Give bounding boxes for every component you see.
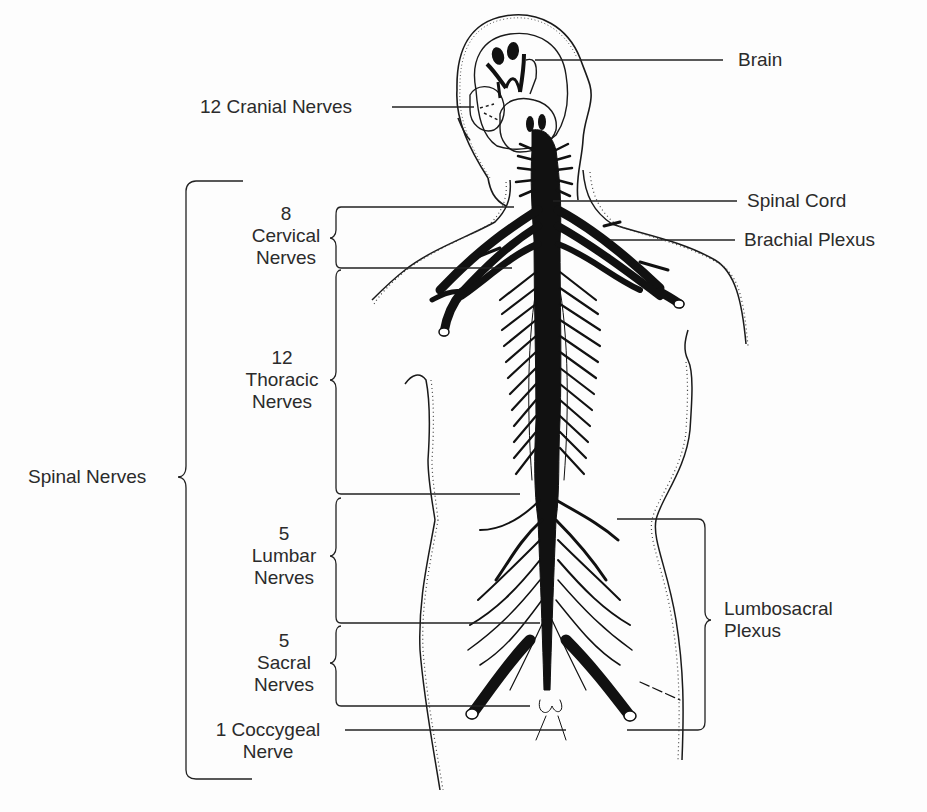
lumbar-suffix: Nerves: [240, 567, 328, 589]
cervical-name: Cervical: [244, 225, 328, 247]
label-brain: Brain: [738, 49, 782, 71]
lumbosacral-line2: Plexus: [724, 620, 833, 642]
lumbar-count: 5: [240, 523, 328, 545]
label-coccygeal-nerve: 1 Coccygeal Nerve: [206, 719, 330, 763]
brain: [470, 33, 568, 152]
thoracic-name: Thoracic: [236, 369, 328, 391]
coccygeal-line1: 1 Coccygeal: [206, 719, 330, 741]
label-thoracic-nerves: 12 Thoracic Nerves: [236, 347, 328, 413]
cervical-count: 8: [244, 203, 328, 225]
thoracic-count: 12: [236, 347, 328, 369]
anatomy-drawing: [0, 0, 927, 812]
label-brachial-plexus: Brachial Plexus: [744, 229, 875, 251]
head-outline: [457, 15, 591, 206]
thoracic-suffix: Nerves: [236, 391, 328, 413]
coccygeal-line2: Nerve: [206, 741, 330, 763]
label-sacral-nerves: 5 Sacral Nerves: [240, 630, 328, 696]
label-cervical-nerves: 8 Cervical Nerves: [244, 203, 328, 269]
sacral-suffix: Nerves: [240, 674, 328, 696]
label-spinal-cord: Spinal Cord: [747, 190, 846, 212]
lumbosacral-line1: Lumbosacral: [724, 598, 833, 620]
sacral-count: 5: [240, 630, 328, 652]
sacral-name: Sacral: [240, 652, 328, 674]
nervous-system-diagram: Brain 12 Cranial Nerves Spinal Cord Brac…: [0, 0, 927, 812]
label-lumbar-nerves: 5 Lumbar Nerves: [240, 523, 328, 589]
label-spinal-nerves: Spinal Nerves: [28, 466, 146, 488]
lumbar-name: Lumbar: [240, 545, 328, 567]
label-cranial-nerves: 12 Cranial Nerves: [200, 96, 352, 118]
label-lumbosacral-plexus: Lumbosacral Plexus: [724, 598, 833, 642]
cervical-suffix: Nerves: [244, 247, 328, 269]
lumbosacral-nerves: [466, 500, 680, 740]
